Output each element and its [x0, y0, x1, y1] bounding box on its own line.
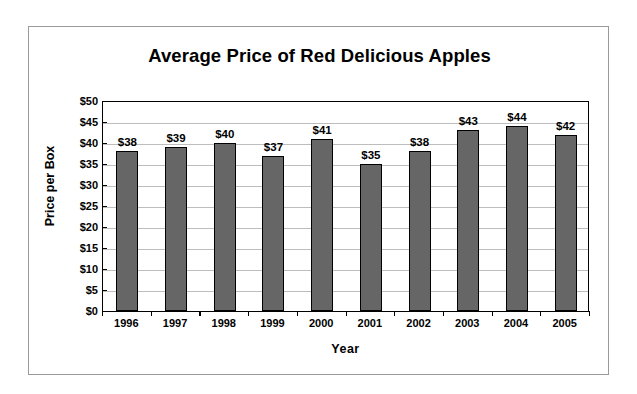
bar[interactable]	[555, 135, 577, 311]
y-axis-tick-mark	[102, 164, 107, 165]
x-axis-tick-mark	[248, 311, 249, 316]
x-axis-tick-mark	[102, 311, 103, 316]
bar[interactable]	[457, 130, 479, 311]
y-axis-tick-label: $45	[54, 116, 98, 128]
bar-slot: $44	[493, 102, 542, 311]
bar-slot: $40	[200, 102, 249, 311]
bar-slot: $38	[395, 102, 444, 311]
bar[interactable]	[214, 143, 236, 311]
bar-value-label: $38	[118, 136, 137, 148]
x-axis-title: Year	[102, 342, 589, 356]
y-axis-tick-label: $0	[54, 305, 98, 317]
bar[interactable]	[262, 156, 284, 311]
y-axis-tick-label: $40	[54, 137, 98, 149]
bar-slot: $37	[249, 102, 298, 311]
y-axis-tick-mark	[102, 122, 107, 123]
bar-value-label: $35	[361, 149, 380, 161]
bar-value-label: $39	[166, 132, 185, 144]
x-axis-tick-label: 2005	[552, 317, 576, 329]
bar-slot: $43	[444, 102, 493, 311]
x-axis-tick-mark	[540, 311, 541, 316]
plot-area: $38$39$40$37$41$35$38$43$44$42	[102, 101, 589, 311]
y-axis-tick-mark	[102, 227, 107, 228]
x-axis-tick-label: 1999	[260, 317, 284, 329]
bar-slot: $41	[298, 102, 347, 311]
bar[interactable]	[409, 151, 431, 311]
bar-slot: $42	[541, 102, 590, 311]
x-axis-tick-mark	[346, 311, 347, 316]
bar-slot: $35	[347, 102, 396, 311]
y-axis-tick-label: $20	[54, 221, 98, 233]
bar-value-label: $43	[459, 115, 478, 127]
bar[interactable]	[506, 126, 528, 311]
x-axis-tick-mark	[151, 311, 152, 316]
y-axis-tick-mark	[102, 206, 107, 207]
x-axis-tick-mark	[297, 311, 298, 316]
bar-slot: $38	[103, 102, 152, 311]
y-axis-tick-labels: $0$5$10$15$20$25$30$35$40$45$50	[50, 101, 98, 311]
y-axis-tick-label: $25	[54, 200, 98, 212]
bar-value-label: $37	[264, 141, 283, 153]
bar-value-label: $44	[507, 111, 526, 123]
x-axis-tick-label: 2002	[406, 317, 430, 329]
y-axis-tick-mark	[102, 101, 107, 102]
x-axis-tick-mark	[589, 311, 590, 316]
x-axis-tick-mark	[492, 311, 493, 316]
y-axis-tick-mark	[102, 269, 107, 270]
x-axis-tick-mark	[199, 311, 200, 316]
y-axis-tick-mark	[102, 185, 107, 186]
bar-value-label: $40	[215, 128, 234, 140]
x-axis-tick-mark	[394, 311, 395, 316]
x-axis-tick-label: 1997	[163, 317, 187, 329]
y-axis-tick-label: $35	[54, 158, 98, 170]
y-axis-tick-label: $15	[54, 242, 98, 254]
chart-title: Average Price of Red Delicious Apples	[29, 45, 610, 67]
x-axis-tick-mark	[443, 311, 444, 316]
x-axis-tick-label: 2001	[358, 317, 382, 329]
x-axis-tick-labels: 1996199719981999200020012002200320042005	[102, 317, 589, 335]
y-axis-tick-label: $5	[54, 284, 98, 296]
y-axis-tick-label: $30	[54, 179, 98, 191]
y-axis-tick-mark	[102, 290, 107, 291]
y-axis-tick-label: $50	[54, 95, 98, 107]
x-axis-tick-label: 2000	[309, 317, 333, 329]
x-axis-tick-label: 2004	[504, 317, 528, 329]
y-axis-tick-mark	[102, 248, 107, 249]
bar[interactable]	[311, 139, 333, 311]
bar[interactable]	[116, 151, 138, 311]
x-axis-tick-label: 1998	[212, 317, 236, 329]
bar-value-label: $38	[410, 136, 429, 148]
bar[interactable]	[360, 164, 382, 311]
chart-frame: Average Price of Red Delicious Apples Pr…	[28, 26, 609, 375]
y-axis-tick-label: $10	[54, 263, 98, 275]
x-axis-tick-label: 2003	[455, 317, 479, 329]
x-axis-tick-label: 1996	[114, 317, 138, 329]
bar-slot: $39	[152, 102, 201, 311]
bar-value-label: $42	[556, 120, 575, 132]
bar-value-label: $41	[313, 124, 332, 136]
bar[interactable]	[165, 147, 187, 311]
y-axis-tick-mark	[102, 143, 107, 144]
